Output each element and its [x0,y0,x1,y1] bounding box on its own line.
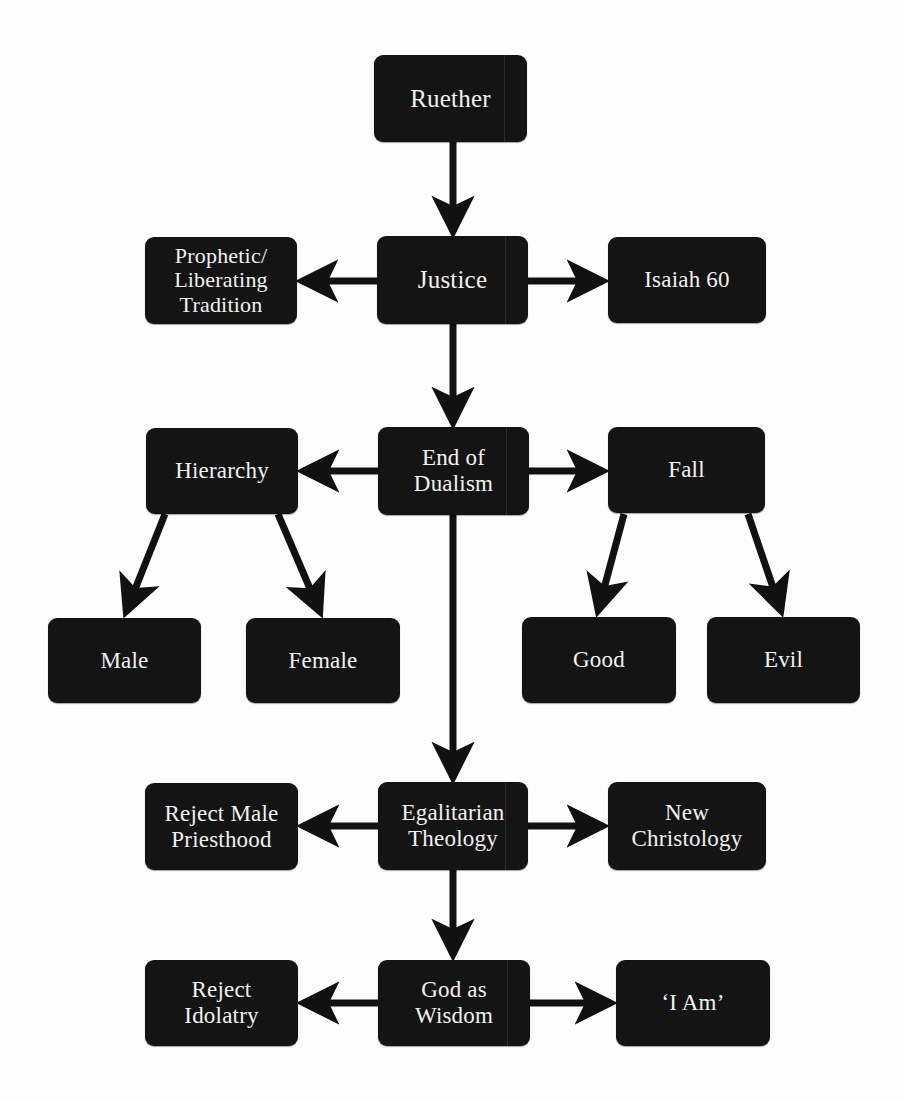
edge-hierarchy-female [278,514,320,612]
node-label-female: Female [283,648,364,674]
node-label-fall: Fall [662,457,711,483]
scan-artifact-line [504,55,505,142]
node-female[interactable]: Female [246,618,400,703]
node-good[interactable]: Good [522,617,676,703]
node-label-good: Good [567,647,631,673]
scan-artifact-line [505,236,506,324]
node-label-god-wisdom: God as Wisdom [409,977,499,1029]
node-justice[interactable]: Justice [377,236,528,324]
node-label-male: Male [94,648,154,674]
node-label-christology: New Christology [626,800,749,852]
node-hierarchy[interactable]: Hierarchy [146,428,298,514]
scan-artifact-line [507,960,508,1046]
edge-layer [0,0,905,1101]
node-ruether[interactable]: Ruether [374,55,527,142]
node-reject-male[interactable]: Reject Male Priesthood [145,783,298,870]
node-egalitarian[interactable]: Egalitarian Theology [378,782,528,870]
node-label-justice: Justice [412,266,493,294]
node-label-isaiah60: Isaiah 60 [638,267,735,293]
node-reject-idol[interactable]: Reject Idolatry [145,960,298,1046]
scan-artifact-line [506,427,507,515]
node-evil[interactable]: Evil [707,617,860,703]
node-i-am[interactable]: ‘I Am’ [616,960,770,1046]
node-god-wisdom[interactable]: God as Wisdom [378,960,530,1046]
node-male[interactable]: Male [48,618,201,703]
node-label-prophetic: Prophetic/ Liberating Tradition [168,244,274,318]
node-isaiah60[interactable]: Isaiah 60 [608,237,766,323]
node-label-end-dualism: End of Dualism [408,445,499,497]
node-label-hierarchy: Hierarchy [169,458,275,484]
node-christology[interactable]: New Christology [608,782,766,870]
node-label-evil: Evil [758,647,809,673]
node-label-i-am: ‘I Am’ [655,990,730,1016]
node-label-reject-male: Reject Male Priesthood [159,801,285,853]
node-end-dualism[interactable]: End of Dualism [378,427,529,515]
node-label-ruether: Ruether [404,85,497,113]
node-prophetic[interactable]: Prophetic/ Liberating Tradition [145,237,297,324]
node-label-egalitarian: Egalitarian Theology [395,800,510,852]
node-fall[interactable]: Fall [608,427,765,513]
edge-hierarchy-male [126,514,165,612]
flowchart-canvas: RuetherProphetic/ Liberating TraditionJu… [0,0,905,1101]
edge-fall-evil [748,514,781,611]
node-label-reject-idol: Reject Idolatry [178,977,264,1029]
edge-fall-good [598,514,624,611]
